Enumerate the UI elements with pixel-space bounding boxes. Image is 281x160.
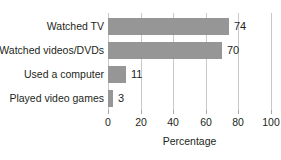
chart-title-cropped [0, 0, 281, 7]
x-tick-label-100: 100 [251, 116, 281, 128]
category-label: Played video games [0, 92, 104, 104]
bar-value-label: 3 [113, 90, 124, 107]
x-axis-title: Percentage [108, 135, 271, 147]
bar-row: 11 [108, 63, 271, 87]
bar-row: 74 [108, 15, 271, 39]
bar-chart-figure: 7470113 Watched TVWatched videos/DVDsUse… [0, 0, 281, 160]
bar-value-label: 70 [222, 42, 239, 59]
gridline-100 [271, 13, 272, 110]
x-tick-mark-100 [271, 110, 272, 114]
bar-value-label: 74 [229, 18, 246, 35]
bar [108, 18, 229, 35]
bar-row: 70 [108, 39, 271, 63]
bar [108, 66, 126, 83]
bar-value-label: 11 [126, 66, 142, 83]
bar [108, 42, 222, 59]
category-label: Watched TV [0, 20, 104, 32]
category-label: Watched videos/DVDs [0, 44, 104, 56]
bar-row: 3 [108, 87, 271, 111]
category-label: Used a computer [0, 68, 104, 80]
